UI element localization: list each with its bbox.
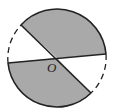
shaded-sector-top	[21, 9, 106, 58]
circle-diagram: O	[0, 0, 113, 112]
center-label-o: O	[47, 60, 57, 75]
dashed-arc-right	[91, 54, 106, 93]
dashed-arc-left	[8, 25, 21, 63]
